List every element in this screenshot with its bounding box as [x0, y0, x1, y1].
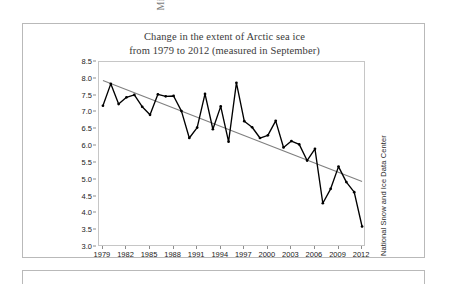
- data-point-marker: [149, 113, 152, 116]
- y-axis-title: Million km2: [40, 0, 56, 77]
- x-axis-tick-mark: [290, 246, 291, 249]
- data-point-marker: [102, 104, 105, 107]
- sea-ice-series-path: [103, 83, 362, 227]
- y-axis-tick: 3.5: [82, 225, 92, 234]
- data-point-marker: [219, 105, 222, 108]
- y-axis-tick: 7.0: [82, 107, 92, 116]
- data-point-marker: [266, 134, 269, 137]
- sea-ice-series-markers: [102, 82, 364, 228]
- y-axis-tick-mark: [93, 111, 96, 112]
- y-axis-tick-mark: [93, 178, 96, 179]
- y-axis-tick: 6.0: [82, 141, 92, 150]
- data-point-marker: [314, 147, 317, 150]
- data-point-marker: [125, 96, 128, 99]
- chart-title-line-2: from 1979 to 2012 (measured in September…: [23, 44, 426, 58]
- data-point-marker: [212, 128, 215, 131]
- x-axis-tick: 2012: [353, 250, 370, 259]
- y-axis-tick-mark: [93, 128, 96, 129]
- data-point-marker: [204, 93, 207, 96]
- data-point-marker: [180, 110, 183, 113]
- y-axis-tick: 6.5: [82, 124, 92, 133]
- y-axis-tick: 4.5: [82, 191, 92, 200]
- data-point-marker: [251, 126, 254, 129]
- data-point-marker: [274, 120, 277, 123]
- x-axis-tick: 2003: [282, 250, 299, 259]
- x-axis-tick: 1979: [94, 250, 111, 259]
- trendline-path: [103, 81, 362, 182]
- x-axis-tick-mark: [361, 246, 362, 249]
- y-axis-tick-mark: [93, 94, 96, 95]
- x-axis-tick-mark: [338, 246, 339, 249]
- y-axis-tick-mark: [93, 161, 96, 162]
- data-point-marker: [345, 181, 348, 184]
- data-point-marker: [196, 126, 199, 129]
- x-axis-tick-mark: [173, 246, 174, 249]
- data-point-marker: [109, 83, 112, 86]
- source-credit: National Snow and Ice Data Center: [379, 0, 391, 116]
- data-point-marker: [117, 103, 120, 106]
- y-axis-title-label: Million km: [155, 0, 166, 10]
- x-axis-tick: 2009: [329, 250, 346, 259]
- data-point-marker: [133, 94, 136, 97]
- data-point-marker: [259, 137, 262, 140]
- data-point-marker: [361, 225, 364, 228]
- data-point-marker: [321, 202, 324, 205]
- x-axis-tick-mark: [125, 246, 126, 249]
- figure-container: Change in the extent of Arctic sea ice f…: [22, 23, 425, 258]
- data-point-marker: [172, 95, 175, 98]
- y-axis-tick-mark: [93, 246, 96, 247]
- chart-plot-svg: [99, 62, 366, 247]
- x-axis-tick: 1988: [164, 250, 181, 259]
- y-axis-tick: 5.0: [82, 174, 92, 183]
- y-axis-tick: 4.0: [82, 208, 92, 217]
- y-axis-tick: 3.0: [82, 242, 92, 251]
- y-axis-tick-mark: [93, 229, 96, 230]
- data-point-marker: [243, 120, 246, 123]
- y-axis-tick-mark: [93, 61, 96, 62]
- x-axis-tick-mark: [149, 246, 150, 249]
- data-point-marker: [141, 105, 144, 108]
- chart-title-line-1: Change in the extent of Arctic sea ice: [23, 30, 426, 44]
- y-axis-tick: 7.5: [82, 90, 92, 99]
- next-figure-container: [22, 270, 425, 284]
- x-axis-tick: 1982: [117, 250, 134, 259]
- data-point-marker: [164, 95, 167, 98]
- data-point-marker: [235, 82, 238, 85]
- data-point-marker: [157, 93, 160, 96]
- x-axis-tick-mark: [196, 246, 197, 249]
- y-axis-tick-labels: 8.58.07.57.06.56.05.55.04.54.03.53.0: [62, 61, 96, 246]
- y-axis-tick-mark: [93, 77, 96, 78]
- x-axis-tick: 1985: [141, 250, 158, 259]
- x-axis-tick-labels: 1979198219851988199119941997200020032006…: [98, 246, 365, 262]
- data-point-marker: [290, 140, 293, 143]
- data-point-marker: [353, 191, 356, 194]
- x-axis-tick: 1994: [211, 250, 228, 259]
- chart-title: Change in the extent of Arctic sea ice f…: [23, 30, 426, 57]
- y-axis-tick-mark: [93, 212, 96, 213]
- source-credit-text: National Snow and Ice Data Center: [379, 106, 388, 256]
- data-point-marker: [282, 146, 285, 149]
- data-point-marker: [337, 165, 340, 168]
- y-axis-tick: 8.5: [82, 57, 92, 66]
- x-axis-tick-mark: [267, 246, 268, 249]
- x-axis-tick-mark: [314, 246, 315, 249]
- y-axis-tick: 8.0: [82, 73, 92, 82]
- x-axis-tick: 1997: [235, 250, 252, 259]
- x-axis-tick: 1991: [188, 250, 205, 259]
- x-axis-tick-mark: [220, 246, 221, 249]
- plot-area: [98, 61, 365, 246]
- data-point-marker: [298, 143, 301, 146]
- data-point-marker: [188, 137, 191, 140]
- x-axis-tick-mark: [102, 246, 103, 249]
- y-axis-tick: 5.5: [82, 157, 92, 166]
- data-point-marker: [329, 187, 332, 190]
- data-point-marker: [227, 140, 230, 143]
- y-axis-tick-mark: [93, 195, 96, 196]
- x-axis-tick: 2006: [306, 250, 323, 259]
- data-point-marker: [306, 159, 309, 162]
- y-axis-tick-mark: [93, 145, 96, 146]
- x-axis-tick: 2000: [258, 250, 275, 259]
- x-axis-tick-mark: [243, 246, 244, 249]
